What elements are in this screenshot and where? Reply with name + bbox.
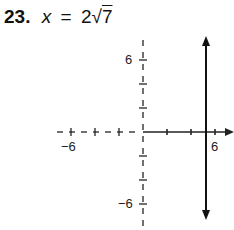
y-tick-label-neg6: −6 <box>118 196 133 211</box>
coordinate-graph: −6 6 6 −6 <box>0 0 234 230</box>
arrow-down-icon <box>202 210 210 220</box>
x-tick-label-6: 6 <box>211 139 218 154</box>
arrow-up-icon <box>202 36 210 46</box>
x-axis-positive <box>143 129 228 135</box>
x-axis-arrow-icon <box>225 128 234 136</box>
graph-line-x-2sqrt7 <box>202 36 210 220</box>
y-axis <box>139 40 147 226</box>
y-tick-label-6: 6 <box>125 52 132 67</box>
x-tick-label-neg6: −6 <box>61 139 76 154</box>
x-axis-negative <box>57 128 135 136</box>
